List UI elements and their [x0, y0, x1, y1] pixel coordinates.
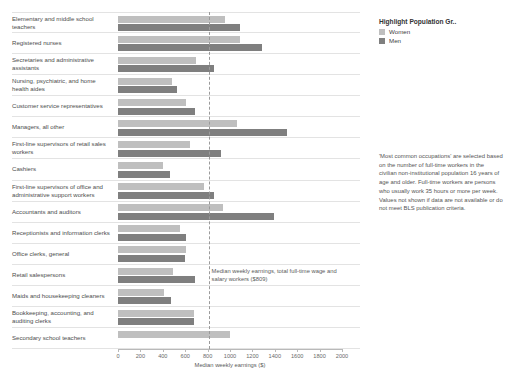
x-axis-tick-label: 1000 [224, 353, 236, 359]
bar-group [118, 33, 360, 53]
x-axis-tick-label: 1200 [246, 353, 258, 359]
bar-women[interactable] [118, 310, 194, 317]
bar-women[interactable] [118, 268, 173, 275]
bar-men[interactable] [118, 150, 221, 157]
bar-men[interactable] [118, 297, 171, 304]
bar-men[interactable] [118, 255, 185, 262]
x-axis-tick [185, 349, 186, 352]
bar-women[interactable] [118, 204, 223, 211]
bar-group [118, 286, 360, 306]
bar-group [118, 138, 360, 158]
x-axis-tick-label: 1600 [291, 353, 303, 359]
x-axis-tick [342, 349, 343, 352]
x-axis-tick [140, 349, 141, 352]
chart-row: Office clerks, general [12, 244, 360, 265]
x-axis-tick-label: 400 [158, 353, 167, 359]
bar-women[interactable] [118, 225, 180, 232]
bar-group [118, 181, 360, 201]
bar-men[interactable] [118, 44, 262, 51]
bar-group [118, 159, 360, 179]
bar-women[interactable] [118, 331, 230, 338]
bar-women[interactable] [118, 246, 186, 253]
x-axis-tick-label: 1400 [269, 353, 281, 359]
x-axis-tick [163, 349, 164, 352]
category-label: Cashiers [12, 165, 116, 173]
chart-row: Elementary and middle school teachers [12, 12, 360, 33]
x-axis-tick [230, 349, 231, 352]
legend-item-men[interactable]: Men [379, 37, 503, 44]
chart-row: First-line supervisors of retail sales w… [12, 138, 360, 159]
bar-women[interactable] [118, 57, 196, 64]
category-label: Receptionists and information clerks [12, 229, 116, 237]
bar-men[interactable] [118, 86, 177, 93]
bar-group [118, 244, 360, 264]
bar-group [118, 96, 360, 116]
bar-men[interactable] [118, 108, 195, 115]
x-axis-tick [275, 349, 276, 352]
category-label: Office clerks, general [12, 250, 116, 258]
bar-men[interactable] [118, 276, 195, 283]
chart-row: First-line supervisors of office and adm… [12, 181, 360, 202]
bar-women[interactable] [118, 99, 186, 106]
bar-group [118, 54, 360, 74]
legend-item-women[interactable]: Women [379, 28, 503, 35]
bar-women[interactable] [118, 36, 240, 43]
x-axis-tick [252, 349, 253, 352]
chart-row: Bookkeeping, accounting, and auditing cl… [12, 307, 360, 328]
bar-women[interactable] [118, 162, 163, 169]
bar-women[interactable] [118, 289, 164, 296]
bar-women[interactable] [118, 141, 190, 148]
bar-men[interactable] [118, 213, 274, 220]
x-axis-tick [320, 349, 321, 352]
bar-men[interactable] [118, 129, 287, 136]
category-label: Customer service representatives [12, 102, 116, 110]
category-label: Nursing, psychiatric, and home health ai… [12, 77, 116, 93]
x-axis-tick-label: 2000 [336, 353, 348, 359]
chart-rows: Elementary and middle school teachersReg… [12, 12, 360, 349]
chart-row: Registered nurses [12, 33, 360, 54]
chart-row: Cashiers [12, 159, 360, 180]
bar-men[interactable] [118, 171, 170, 178]
x-axis-tick [208, 349, 209, 352]
chart-screenshot: Elementary and middle school teachersReg… [0, 0, 510, 386]
category-label: Maids and housekeeping cleaners [12, 292, 116, 300]
legend-swatch-women [379, 29, 385, 35]
bar-women[interactable] [118, 183, 204, 190]
chart-row: Managers, all other [12, 117, 360, 138]
bar-women[interactable] [118, 120, 237, 127]
category-label: Elementary and middle school teachers [12, 15, 116, 31]
x-axis-tick-label: 0 [116, 353, 119, 359]
category-label: Retail salespersons [12, 271, 116, 279]
category-label: First-line supervisors of office and adm… [12, 183, 116, 199]
methodology-note: 'Most common occupations' are selected b… [379, 152, 503, 213]
chart-plot-area: Elementary and middle school teachersReg… [12, 12, 360, 349]
bar-men[interactable] [118, 318, 194, 325]
bar-men[interactable] [118, 192, 214, 199]
x-axis-tick-label: 600 [181, 353, 190, 359]
chart-row: Maids and housekeeping cleaners [12, 286, 360, 307]
category-label: Bookkeeping, accounting, and auditing cl… [12, 309, 116, 325]
bar-men[interactable] [118, 234, 186, 241]
category-label: Registered nurses [12, 39, 116, 47]
bar-men[interactable] [118, 24, 240, 31]
chart-row: Secretaries and administrative assistant… [12, 54, 360, 75]
category-label: First-line supervisors of retail sales w… [12, 140, 116, 156]
category-label: Accountants and auditors [12, 208, 116, 216]
bar-group [118, 117, 360, 137]
x-axis-tick [118, 349, 119, 352]
bar-men[interactable] [118, 65, 214, 72]
legend: Highlight Population Gr.. Women Men [379, 18, 503, 46]
x-axis-tick-label: 800 [203, 353, 212, 359]
category-label: Managers, all other [12, 123, 116, 131]
bar-women[interactable] [118, 78, 172, 85]
chart-row: Secondary school teachers [12, 328, 360, 349]
bar-group [118, 75, 360, 95]
x-axis-title: Median weekly earnings ($) [195, 362, 266, 368]
bar-group [118, 202, 360, 222]
legend-swatch-men [379, 38, 385, 44]
x-axis: 0200400600800100012001400160018002000 Me… [118, 349, 342, 379]
chart-row: Accountants and auditors [12, 202, 360, 223]
legend-title: Highlight Population Gr.. [379, 18, 503, 25]
median-reference-line [209, 12, 210, 349]
chart-row: Customer service representatives [12, 96, 360, 117]
